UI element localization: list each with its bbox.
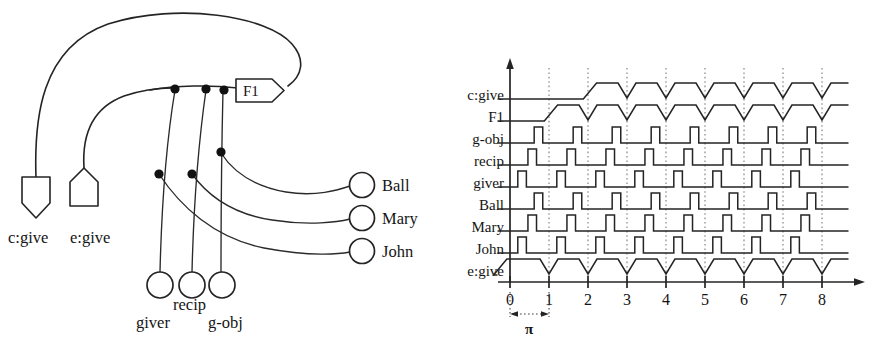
x-tick-label-2: 2: [584, 291, 592, 308]
role-label-giver: giver: [136, 313, 170, 332]
timing-diagram-panel: 012345678 c:giveF1g-objrecipgiverBallMar…: [436, 0, 872, 342]
edge-giver-link: [160, 90, 175, 272]
waveform-giver: [498, 171, 849, 187]
junction-dot-gobj-filler: [216, 147, 225, 156]
edge-recip-to-mary: [192, 174, 350, 223]
axes: [498, 58, 865, 286]
waveform-f1: [498, 105, 849, 121]
junction-dot-recip-filler: [187, 169, 196, 178]
role-label-recip: recip: [173, 295, 206, 314]
period-brace-arrow-left: [510, 311, 518, 317]
junction-dot-giver: [170, 84, 179, 93]
x-tick-label-4: 4: [662, 291, 670, 308]
role-node-gobj[interactable]: [209, 272, 235, 298]
figure-root: F1 c:give e:give giver recip g-obj: [0, 0, 872, 342]
edge-gobj-link: [221, 90, 223, 272]
row-label-e-give: e:give: [467, 263, 504, 279]
egive-node-label: e:give: [70, 228, 110, 247]
junction-dot-recip: [201, 84, 210, 93]
row-label-recip: recip: [474, 153, 504, 169]
waveform-g-obj: [498, 127, 849, 143]
filler-node-mary[interactable]: [350, 206, 375, 231]
row-label-c-give: c:give: [467, 87, 504, 103]
waveform-group: [494, 83, 849, 275]
filler-node-john[interactable]: [350, 239, 375, 264]
row-label-giver: giver: [473, 175, 504, 191]
waveform-e-give: [494, 259, 849, 275]
period-label-pi: π: [525, 321, 534, 337]
cgive-node-label: c:give: [8, 228, 48, 247]
filler-label-mary: Mary: [382, 209, 418, 228]
x-tick-label-8: 8: [818, 291, 826, 308]
row-label-f1: F1: [488, 109, 504, 125]
filler-node-ball[interactable]: [350, 173, 375, 198]
row-label-john: John: [476, 241, 505, 257]
row-label-mary: Mary: [472, 219, 505, 235]
network-diagram-panel: F1 c:give e:give giver recip g-obj: [0, 0, 436, 342]
x-tick-label-5: 5: [701, 291, 709, 308]
junction-dot-giver-filler: [154, 169, 163, 178]
gridlines: [549, 68, 822, 282]
role-node-giver[interactable]: [147, 272, 173, 298]
row-label-ball: Ball: [479, 197, 504, 213]
waveform-ball: [498, 193, 849, 209]
edge-recip-link: [192, 90, 206, 272]
row-label-g-obj: g-obj: [472, 131, 504, 147]
period-brace: π: [510, 292, 549, 337]
egive-node-shape: [70, 168, 98, 206]
x-tick-group: 012345678: [506, 276, 826, 308]
waveform-c-give: [498, 83, 849, 99]
x-tick-label-7: 7: [779, 291, 787, 308]
role-label-gobj: g-obj: [208, 313, 243, 332]
edge-egive-to-spine: [84, 88, 172, 168]
waveform-mary: [498, 215, 849, 231]
edge-gobj-to-ball: [221, 153, 350, 194]
waveform-recip: [498, 149, 849, 165]
x-tick-label-6: 6: [740, 291, 748, 308]
waveform-john: [498, 237, 849, 253]
junction-dot-gobj: [219, 85, 228, 94]
filler-label-john: John: [382, 242, 413, 261]
row-label-group: c:giveF1g-objrecipgiverBallMaryJohne:giv…: [467, 87, 504, 279]
cgive-node-shape: [22, 177, 50, 218]
f1-tag-label: F1: [243, 83, 259, 99]
filler-label-ball: Ball: [382, 176, 410, 195]
x-tick-label-3: 3: [623, 291, 631, 308]
x-axis-arrowhead: [854, 278, 865, 286]
edge-giver-to-john: [159, 174, 350, 254]
y-axis-arrowhead: [506, 58, 514, 69]
period-brace-arrow-right: [541, 311, 549, 317]
